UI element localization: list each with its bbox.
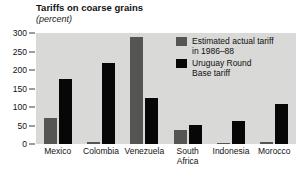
y-axis-tick-mark <box>29 144 35 145</box>
bar <box>102 63 115 144</box>
y-axis-tick-label: 250 <box>13 47 27 57</box>
bar <box>232 121 245 144</box>
chart-legend: Estimated actual tariffin 1986–88Uruguay… <box>176 36 274 80</box>
x-axis-category-label: Indonesia <box>209 146 252 166</box>
bar-group <box>79 33 122 144</box>
bar-group <box>123 33 166 144</box>
legend-swatch <box>176 37 187 46</box>
bar <box>217 143 230 145</box>
y-axis-tick-label: 200 <box>13 65 27 75</box>
legend-label: Uruguay RoundBase tariff <box>192 58 252 78</box>
bar <box>275 104 288 144</box>
bar <box>260 142 273 144</box>
bar <box>174 130 187 144</box>
y-axis: 300250200150100500 <box>0 33 36 144</box>
y-axis-tick-mark <box>29 51 35 52</box>
y-axis-tick-label: 0 <box>22 139 27 149</box>
x-axis-category-label: SouthAfrica <box>166 146 209 166</box>
bar <box>145 98 158 144</box>
y-axis-tick-mark <box>29 33 35 34</box>
legend-label: Estimated actual tariffin 1986–88 <box>192 36 274 56</box>
x-axis-category-label: Colombia <box>79 146 122 166</box>
chart-title: Tariffs on coarse grains <box>36 2 143 13</box>
y-axis-tick-label: 300 <box>13 28 27 38</box>
y-axis-tick-mark <box>29 107 35 108</box>
y-axis-tick-label: 150 <box>13 84 27 94</box>
bar-group <box>36 33 79 144</box>
y-axis-tick-mark <box>29 125 35 126</box>
x-axis-category-label: Venezuela <box>123 146 166 166</box>
x-axis-category-label: Morocco <box>253 146 296 166</box>
y-axis-tick-label: 100 <box>13 102 27 112</box>
legend-item: Estimated actual tariffin 1986–88 <box>176 36 274 56</box>
chart-figure: Tariffs on coarse grains (percent) 30025… <box>0 0 308 179</box>
y-axis-tick-label: 50 <box>18 121 27 131</box>
x-axis-category-label: Mexico <box>36 146 79 166</box>
legend-swatch <box>176 59 187 68</box>
chart-subtitle: (percent) <box>36 14 72 24</box>
bar <box>189 125 202 144</box>
x-axis-category-labels: MexicoColombiaVenezuelaSouthAfricaIndone… <box>36 146 296 166</box>
bar <box>130 37 143 144</box>
legend-item: Uruguay RoundBase tariff <box>176 58 274 78</box>
y-axis-tick-mark <box>29 70 35 71</box>
bar <box>87 142 100 144</box>
bar <box>44 118 57 144</box>
bar <box>59 79 72 144</box>
y-axis-tick-mark <box>29 88 35 89</box>
